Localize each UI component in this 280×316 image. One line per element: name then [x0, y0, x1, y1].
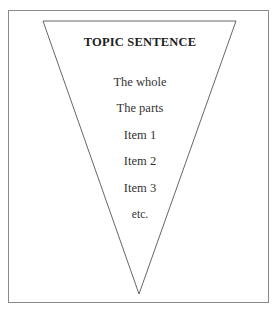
level-label-the-parts: The parts: [0, 101, 280, 115]
level-label-item-1: Item 1: [0, 128, 280, 142]
level-label-the-whole: The whole: [0, 75, 280, 89]
level-label-item-3: Item 3: [0, 181, 280, 195]
level-label-etc: etc.: [0, 207, 280, 221]
level-label-item-2: Item 2: [0, 154, 280, 168]
topic-sentence-title: TOPIC SENTENCE: [0, 35, 280, 50]
